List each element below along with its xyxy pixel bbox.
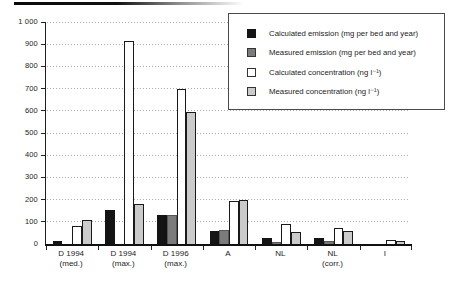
legend-label: Calculated emission (mg per bed and year… [269,29,418,38]
x-tick [411,246,412,250]
y-tick [41,221,45,222]
bar-series3-group6 [334,228,344,244]
legend-item-2: Measured emission (mg per bed and year) [247,43,444,63]
bar-series4-group4 [239,200,249,244]
y-axis-label: 100 [0,217,38,227]
bar-series4-group7 [396,241,406,244]
y-axis-label: 0 [0,239,38,249]
legend: Calculated emission (mg per bed and year… [228,13,445,110]
bar-series4-group2 [134,204,144,244]
bar-series3-group5 [281,224,291,244]
x-axis-label-group5: NL [254,249,306,259]
page-top-rule [14,2,244,5]
x-axis-label-group7: I [359,249,411,259]
y-tick [41,88,45,89]
bar-series1-group3 [157,215,167,244]
y-axis-label: 600 [0,106,38,116]
y-tick [41,155,45,156]
y-tick [41,199,45,200]
y-tick [41,22,45,23]
y-axis-label: 500 [0,128,38,138]
bar-series3-group2 [124,41,134,244]
bar-series1-group4 [210,231,220,244]
legend-label: Measured concentration (ng l⁻¹) [269,87,379,96]
bar-series1-group5 [262,238,272,244]
bar-series2-group4 [219,230,229,244]
legend-swatch-icon [247,68,256,77]
x-axis-label-group2: D 1994(max.) [97,249,149,268]
y-axis-label: 400 [0,150,38,160]
bar-series4-group3 [186,112,196,244]
x-axis-label-group3: D 1996(max.) [150,249,202,268]
bar-series1-group1 [53,241,63,244]
legend-item-3: Calculated concentration (ng l⁻¹) [247,63,444,83]
y-axis-label: 800 [0,61,38,71]
y-axis-label: 1 000 [0,17,38,27]
y-tick [41,133,45,134]
x-axis-label-group4: A [202,249,254,259]
bar-series3-group1 [72,226,82,244]
y-axis-label: 200 [0,195,38,205]
y-tick [41,66,45,67]
bar-series3-group3 [177,89,187,244]
y-axis-label: 900 [0,39,38,49]
figure: 01002003004005006007008009001 000 D 1994… [0,0,464,288]
x-axis-label-group1: D 1994(med.) [45,249,97,268]
gridline-300 [47,177,410,178]
bar-series4-group5 [291,232,301,244]
legend-swatch-icon [247,29,256,38]
legend-label: Measured emission (mg per bed and year) [269,48,416,57]
legend-label: Calculated concentration (ng l⁻¹) [269,68,381,77]
gridline-400 [47,155,410,156]
legend-swatch-icon [247,87,256,96]
legend-swatch-icon [247,48,256,57]
y-tick [41,44,45,45]
legend-item-4: Measured concentration (ng l⁻¹) [247,82,444,102]
bar-series3-group7 [386,240,396,244]
gridline-600 [47,110,410,111]
bar-series4-group1 [82,220,92,244]
bar-series1-group6 [314,238,324,244]
bar-series1-group2 [105,210,115,244]
y-tick [41,177,45,178]
bar-series2-group3 [167,215,177,244]
bar-series3-group4 [229,201,239,244]
bar-series2-group5 [272,242,282,244]
y-axis-label: 700 [0,84,38,94]
legend-item-1: Calculated emission (mg per bed and year… [247,24,444,44]
bar-series4-group6 [343,231,353,244]
y-tick [41,110,45,111]
x-axis-label-group6: NL(corr.) [306,249,358,268]
gridline-500 [47,133,410,134]
y-axis-label: 300 [0,172,38,182]
bar-series2-group6 [324,241,334,244]
